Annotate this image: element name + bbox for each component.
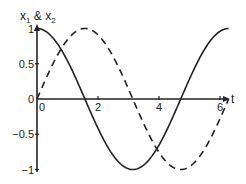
y-tick-label: −1 <box>21 164 34 176</box>
x-axis-arrow-icon <box>223 96 230 102</box>
y-tick-label: 0.5 <box>19 58 34 70</box>
x-tick-label: 2 <box>95 101 101 113</box>
y-axis-arrow-icon <box>34 24 40 31</box>
y-tick-label: −0.5 <box>12 128 34 140</box>
x-tick-label: 0 <box>39 101 45 113</box>
y-tick-label: 0 <box>28 93 34 105</box>
y-axis-label: x1 & x2 <box>20 9 56 25</box>
x-tick-label: 4 <box>156 101 162 113</box>
x-axis-label: t <box>231 92 235 106</box>
x-tick-label: 6 <box>217 101 223 113</box>
line-chart: 0246−1−0.500.51 x1 & x2 t <box>0 0 246 184</box>
